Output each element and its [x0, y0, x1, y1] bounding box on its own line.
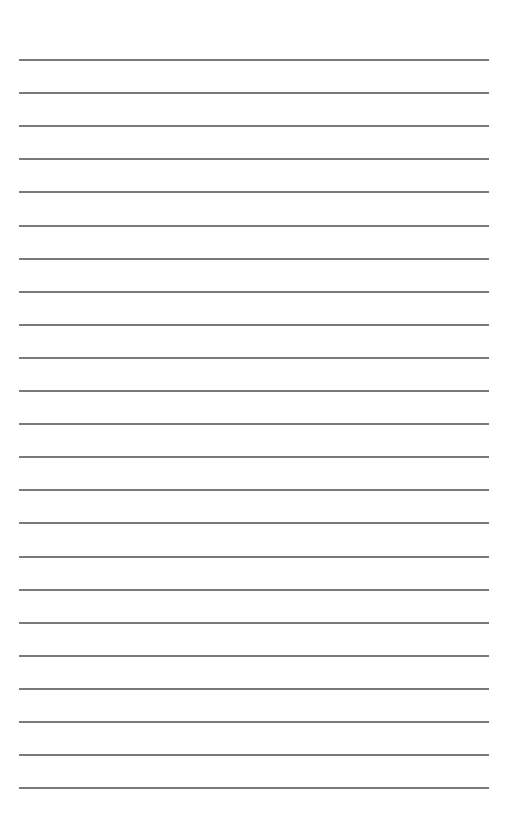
ruled-line [19, 390, 489, 392]
ruled-line [19, 589, 489, 591]
lined-paper-page [0, 0, 509, 839]
ruled-line [19, 688, 489, 690]
ruled-line [19, 291, 489, 293]
ruled-line [19, 556, 489, 558]
ruled-line [19, 423, 489, 425]
ruled-line [19, 721, 489, 723]
ruled-line [19, 92, 489, 94]
ruled-line [19, 59, 489, 61]
ruled-line [19, 489, 489, 491]
ruled-line [19, 655, 489, 657]
ruled-line [19, 357, 489, 359]
ruled-line [19, 158, 489, 160]
ruled-line [19, 787, 489, 789]
ruled-line [19, 754, 489, 756]
ruled-line [19, 324, 489, 326]
ruled-line [19, 456, 489, 458]
ruled-line [19, 225, 489, 227]
ruled-line [19, 258, 489, 260]
ruled-line [19, 191, 489, 193]
ruled-line [19, 622, 489, 624]
ruled-line [19, 522, 489, 524]
ruled-line [19, 125, 489, 127]
